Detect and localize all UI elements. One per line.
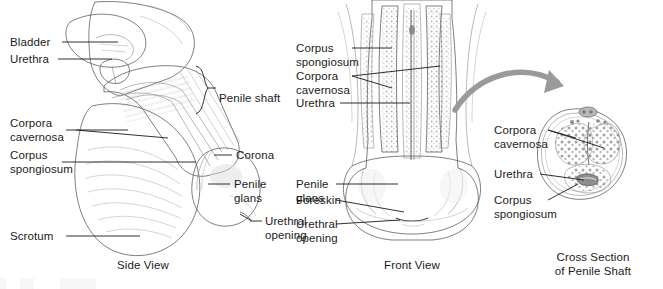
label-line-1: Corpora	[10, 117, 52, 129]
label-line-2: spongiosum	[10, 163, 73, 175]
label-front-corpora-cavernosa: Corpora cavernosa	[296, 70, 376, 97]
label-side-penile-shaft: Penile shaft	[219, 92, 280, 105]
label-xsec-corpus-spongiosum: Corpus spongiosum	[494, 194, 584, 221]
label-front-corpus-spongiosum: Corpus spongiosum	[296, 42, 388, 69]
label-line-2: cavernosa	[10, 131, 64, 143]
label-line-2: spongiosum	[296, 56, 359, 68]
label-front-urethral-opening: Urethral opening	[296, 218, 362, 245]
scan-artifact	[0, 278, 150, 289]
label-line-2: cavernosa	[494, 138, 548, 150]
caption-line-2: of Penile Shaft	[555, 265, 631, 277]
label-line-1: Corpora	[296, 70, 338, 82]
label-side-corona: Corona	[236, 149, 274, 162]
caption-side-view: Side View	[88, 258, 198, 272]
caption-cross-section: Cross Section of Penile Shaft	[528, 250, 658, 278]
label-side-scrotum: Scrotum	[10, 230, 54, 243]
label-line-1: Urethral	[296, 218, 338, 230]
label-line-1: Penile	[296, 178, 329, 190]
label-line-2: glans	[234, 192, 262, 204]
label-line-1: Corpora	[494, 124, 536, 136]
label-xsec-corpora-cavernosa: Corpora cavernosa	[494, 124, 570, 151]
label-line-2: spongiosum	[494, 208, 557, 220]
label-line-2: cavernosa	[296, 84, 350, 96]
label-line-1: Corpus	[10, 149, 48, 161]
anatomy-figure: Bladder Urethra Corpora cavernosa Corpus…	[0, 0, 663, 289]
label-xsec-urethra: Urethra	[494, 168, 533, 181]
label-side-corpora-cavernosa: Corpora cavernosa	[10, 117, 82, 144]
label-side-bladder: Bladder	[10, 36, 50, 49]
label-line-1: Penile	[234, 178, 267, 190]
label-side-penile-glans: Penile glans	[234, 178, 290, 205]
label-line-1: Corpus	[296, 42, 334, 54]
caption-line-1: Cross Section	[557, 251, 630, 263]
label-front-urethra: Urethra	[296, 97, 335, 110]
label-line-1: Corpus	[494, 194, 532, 206]
label-front-foreskin: Foreskin	[296, 194, 341, 207]
label-line-2: opening	[296, 232, 338, 244]
caption-front-view: Front View	[357, 258, 467, 272]
label-layer: Bladder Urethra Corpora cavernosa Corpus…	[0, 0, 663, 289]
label-side-corpus-spongiosum: Corpus spongiosum	[10, 149, 100, 176]
label-side-urethra: Urethra	[10, 53, 49, 66]
